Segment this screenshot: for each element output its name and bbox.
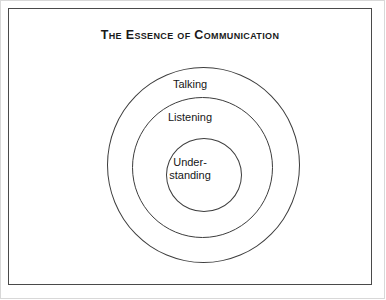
inner-circle-label: Under- standing xyxy=(9,156,371,181)
diagram-frame: The Essence of Communication Talking Lis… xyxy=(8,8,372,285)
inner-circle-label-line1: Under- xyxy=(9,156,371,169)
figure-title: The Essence of Communication xyxy=(9,28,371,42)
inner-circle-label-line2: standing xyxy=(9,169,371,182)
outer-ring-label: Talking xyxy=(9,78,371,90)
middle-ring-label: Listening xyxy=(9,111,371,123)
communication-diagram-figure: The Essence of Communication Talking Lis… xyxy=(0,0,386,300)
